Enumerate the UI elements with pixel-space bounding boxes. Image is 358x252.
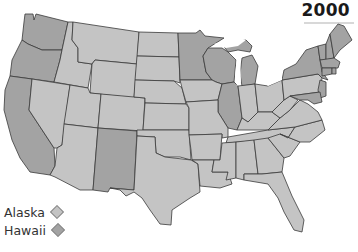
state-wy [90,60,137,98]
legend-label-alaska: Alaska [4,205,45,220]
legend-item-hawaii: Hawaii [4,221,63,239]
legend-item-alaska: Alaska [4,203,63,221]
state-nm [93,128,137,192]
legend-label-hawaii: Hawaii [4,223,46,238]
state-ks [143,103,189,130]
state-ar [189,134,222,160]
state-ia [180,80,222,102]
state-nd [137,32,179,57]
hawaii-diamond-icon [51,223,65,237]
state-ma [320,58,340,68]
state-shapes [4,14,352,232]
state-ct [322,68,332,76]
state-me [330,24,352,58]
alaska-diamond-icon [50,205,64,219]
state-sd [135,56,180,83]
map-legend: Alaska Hawaii [4,203,63,239]
state-co [98,94,145,131]
state-mt [72,22,139,64]
state-ri [332,68,336,74]
state-fl [244,172,304,232]
